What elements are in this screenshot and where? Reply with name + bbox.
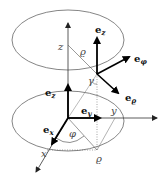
erho-point-vector xyxy=(97,74,118,93)
z-axis-label: z xyxy=(57,41,64,52)
rho-lower-label: ϱ xyxy=(96,153,102,164)
cylindrical-coordinates-diagram: z ϱ γ y x φ ϱ ez eφ eϱ ez ey ex xyxy=(0,0,167,182)
erho-point-label: eϱ xyxy=(125,92,136,105)
x-axis-label: x xyxy=(41,148,47,159)
ey-origin-label: ey xyxy=(81,105,92,118)
gamma-label: γ xyxy=(88,75,94,86)
rho-upper-label: ϱ xyxy=(80,46,86,57)
ephi-point-vector xyxy=(97,57,129,74)
diagram-canvas: z ϱ γ y x φ ϱ ez eφ eϱ ez ey ex xyxy=(0,0,167,182)
ez-point-label: ez xyxy=(95,24,106,37)
y-axis-label: y xyxy=(110,105,117,116)
phi-label: φ xyxy=(69,128,76,139)
ex-origin-label: ex xyxy=(43,124,54,137)
ez-origin-label: ez xyxy=(45,87,56,100)
y-projection-line xyxy=(97,118,115,150)
ephi-point-label: eφ xyxy=(134,53,147,66)
